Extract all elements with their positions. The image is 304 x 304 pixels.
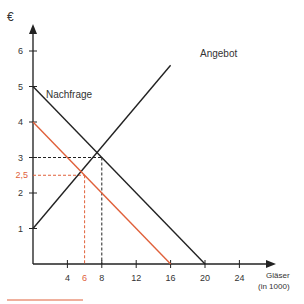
demand-label: Nachfrage <box>46 90 92 100</box>
x-tick-label: 4 <box>65 273 70 283</box>
x-axis-label-line2: (in 1000) <box>258 283 290 291</box>
x-axis-arrow-icon <box>266 260 276 268</box>
x-axis-label-line1: Gläser <box>266 272 290 280</box>
x-highlight-label: 6 <box>82 273 87 283</box>
x-tick-label: 12 <box>131 273 141 283</box>
x-tick-label: 16 <box>166 273 176 283</box>
x-tick-label: 8 <box>99 273 104 283</box>
y-tick-label: 1 <box>18 224 23 234</box>
supply-demand-chart: 481216202412345662,5 <box>0 0 304 304</box>
y-axis-arrow-icon <box>29 24 37 34</box>
supply-label: Angebot <box>200 49 237 59</box>
x-tick-label: 24 <box>234 273 244 283</box>
y-tick-label: 6 <box>18 46 23 56</box>
y-tick-label: 3 <box>18 153 23 163</box>
y-tick-label: 5 <box>18 82 23 92</box>
y-axis-label: € <box>7 11 14 23</box>
x-tick-label: 20 <box>200 273 210 283</box>
y-tick-label: 4 <box>18 117 23 127</box>
y-tick-label: 2 <box>18 188 23 198</box>
y-highlight-label: 2,5 <box>15 170 28 180</box>
